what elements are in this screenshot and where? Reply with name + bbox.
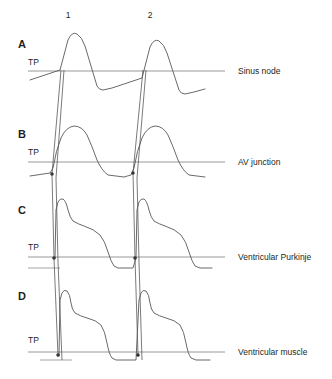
panel-letter-d: D <box>18 290 26 302</box>
beat-number-group: 1 2 <box>66 10 153 20</box>
beat-number-1: 1 <box>66 10 71 20</box>
tissue-label-av-junction: AV junction <box>238 157 281 167</box>
panel-letter-a: A <box>18 38 26 50</box>
tp-label-d: TP <box>28 335 39 345</box>
panel-a-group: A TP Sinus node <box>18 33 281 94</box>
conduction-line-group <box>52 70 146 360</box>
tissue-label-sinus-node: Sinus node <box>238 66 281 76</box>
beat-number-2: 2 <box>148 10 153 20</box>
action-potential-figure: 1 2 A TP Sinus node B TP AV junction C T… <box>0 0 332 379</box>
tissue-label-ventricular-purkinje: Ventricular Purkinje <box>238 252 312 262</box>
tp-label-c: TP <box>28 242 39 252</box>
tp-label-b: TP <box>28 147 39 157</box>
panel-letter-c: C <box>18 204 26 216</box>
figure-canvas: 1 2 A TP Sinus node B TP AV junction C T… <box>0 0 332 379</box>
tp-label-a: TP <box>28 57 39 67</box>
panel-b-group: B TP AV junction <box>18 126 281 177</box>
action-potential-trace-ventricular-muscle <box>59 290 210 360</box>
tissue-label-ventricular-muscle: Ventricular muscle <box>238 347 308 357</box>
panel-letter-b: B <box>18 128 26 140</box>
panel-c-group: C TP Ventricular Purkinje <box>18 199 312 268</box>
action-potential-trace-sinus-node <box>30 33 205 94</box>
